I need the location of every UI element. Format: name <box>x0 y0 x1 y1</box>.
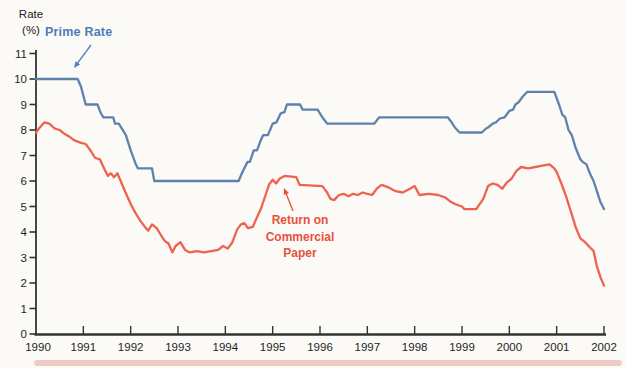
y-tick-label-0: 0 <box>21 328 27 340</box>
y-tick-label-3: 3 <box>21 252 27 264</box>
x-tick-label-1999: 1999 <box>449 341 475 353</box>
x-tick-label-1993: 1993 <box>165 341 191 353</box>
commercial-paper-arrow-head <box>284 188 289 195</box>
commercial-paper-arrow <box>286 193 293 211</box>
y-tick-label-2: 2 <box>21 277 27 289</box>
x-tick-label-2000: 2000 <box>497 341 523 353</box>
x-tick-label-1992: 1992 <box>118 341 144 353</box>
commercial-paper-label-line-2: Commercial <box>252 229 348 246</box>
y-tick-label-6: 6 <box>21 175 27 187</box>
x-tick-label-1995: 1995 <box>260 341 286 353</box>
y-tick-label-8: 8 <box>21 124 27 136</box>
x-tick-label-1991: 1991 <box>71 341 97 353</box>
y-tick-label-4: 4 <box>21 226 28 238</box>
y-tick-label-11: 11 <box>15 48 27 60</box>
y-tick-label-9: 9 <box>21 99 27 111</box>
commercial-paper-label: Return on Commercial Paper <box>252 212 348 262</box>
x-tick-label-1990: 1990 <box>25 341 51 353</box>
chart-figure: 0123456789101119901991199219931994199519… <box>0 0 626 368</box>
x-tick-label-1994: 1994 <box>213 341 239 353</box>
x-tick-label-1996: 1996 <box>307 341 333 353</box>
x-tick-label-2001: 2001 <box>544 341 570 353</box>
y-tick-label-7: 7 <box>21 150 27 162</box>
prime-rate-line <box>36 79 604 209</box>
commercial-paper-label-line-1: Return on <box>252 212 348 229</box>
prime-rate-arrow-head <box>74 61 80 68</box>
x-tick-label-1997: 1997 <box>355 341 381 353</box>
prime-rate-label: Prime Rate <box>45 25 112 39</box>
x-tick-label-2002: 2002 <box>591 341 617 353</box>
y-tick-label-1: 1 <box>21 303 27 315</box>
y-tick-label-10: 10 <box>14 73 27 85</box>
chart-canvas: 0123456789101119901991199219931994199519… <box>0 0 626 368</box>
y-axis-title-line-1: Rate <box>10 7 52 23</box>
prime-rate-arrow <box>77 45 91 64</box>
y-tick-label-5: 5 <box>21 201 27 213</box>
x-tick-label-1998: 1998 <box>402 341 428 353</box>
page-edge-band <box>34 360 622 366</box>
commercial-paper-label-line-3: Paper <box>252 245 348 262</box>
